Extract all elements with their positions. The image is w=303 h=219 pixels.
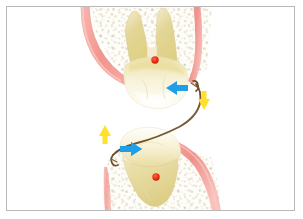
upper-tooth-crown <box>124 57 188 109</box>
upper-jaw-group <box>81 7 217 109</box>
arrow-lower-vertical-force <box>99 125 111 144</box>
center-of-resistance-lower <box>152 173 159 180</box>
dental-force-illustration <box>7 7 294 210</box>
center-of-resistance-upper <box>151 56 158 63</box>
figure-caption <box>0 0 1 1</box>
figure-title: Orthodontic force diagram of opposing te… <box>0 0 1 1</box>
figure-frame: Orthodontic force diagram of opposing te… <box>0 0 303 219</box>
lower-jaw-group <box>99 127 227 210</box>
